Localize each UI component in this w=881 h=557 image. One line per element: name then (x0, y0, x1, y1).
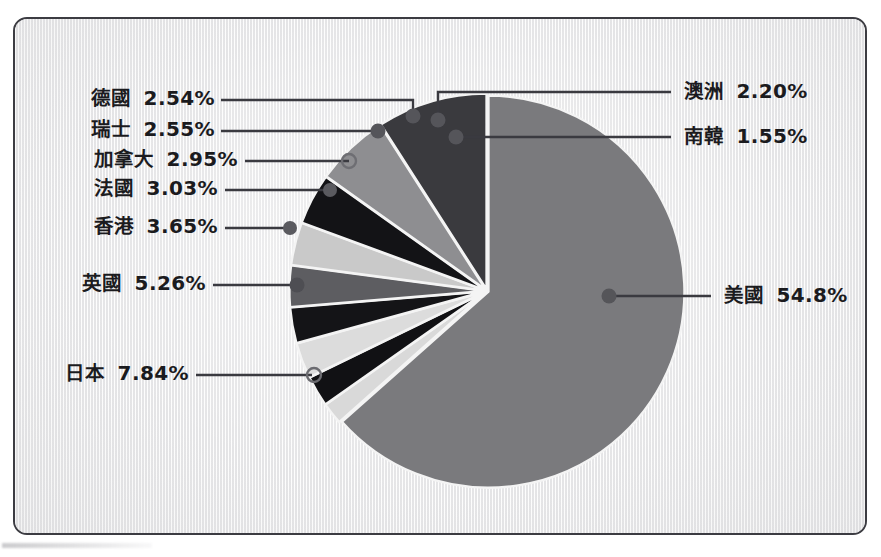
slice-label-uk-name: 英國 (82, 274, 122, 294)
pie-slices (289, 93, 684, 487)
leader-dot-france (323, 183, 337, 197)
leader-dot-korea (449, 130, 464, 145)
slice-label-swiss-value: 2.55% (144, 119, 215, 139)
slice-label-hongkong-name: 香港 (94, 217, 134, 237)
leader-dot-germany (406, 109, 421, 124)
slice-label-germany-value: 2.54% (144, 88, 215, 108)
slice-label-germany: 德國2.54% (55, 88, 215, 109)
slice-label-australia: 澳洲2.20% (684, 81, 808, 102)
slice-label-canada-value: 2.95% (167, 149, 238, 169)
slice-label-korea-value: 1.55% (736, 126, 807, 146)
slice-label-france-value: 3.03% (147, 178, 218, 198)
slice-label-australia-name: 澳洲 (684, 82, 724, 102)
slice-label-korea-name: 南韓 (684, 127, 724, 147)
slice-label-france-name: 法國 (94, 179, 134, 199)
leader-dot-australia (431, 113, 446, 128)
leader-line-germany (221, 100, 413, 113)
slice-label-usa-value: 54.8% (776, 285, 847, 305)
slice-label-hongkong: 香港3.65% (50, 216, 218, 237)
leader-dot-usa (602, 289, 617, 304)
slice-label-japan-name: 日本 (65, 364, 105, 384)
leader-dot-uk (290, 278, 305, 293)
slice-label-uk-value: 5.26% (135, 273, 206, 293)
slice-label-canada-name: 加拿大 (94, 150, 155, 170)
slice-label-usa-name: 美國 (724, 286, 764, 306)
chart-figure: 德國2.54% 瑞士2.55% 加拿大2.95% 法國3.03% 香港3.65%… (0, 0, 881, 557)
leader-dot-swiss (371, 124, 386, 139)
slice-label-swiss: 瑞士2.55% (55, 119, 215, 140)
slice-label-hongkong-value: 3.65% (147, 216, 218, 236)
slice-label-swiss-name: 瑞士 (91, 120, 131, 140)
slice-label-usa: 美國54.8% (724, 285, 848, 306)
slice-label-france: 法國3.03% (50, 178, 218, 199)
slice-label-korea: 南韓1.55% (684, 126, 808, 147)
slice-label-japan-value: 7.84% (118, 363, 189, 383)
slice-label-germany-name: 德國 (91, 89, 131, 109)
slice-label-japan: 日本7.84% (22, 363, 189, 384)
leader-dot-hongkong (283, 221, 297, 235)
slice-label-canada: 加拿大2.95% (42, 149, 238, 170)
slice-label-uk: 英國5.26% (38, 273, 206, 294)
slice-label-australia-value: 2.20% (736, 81, 807, 101)
